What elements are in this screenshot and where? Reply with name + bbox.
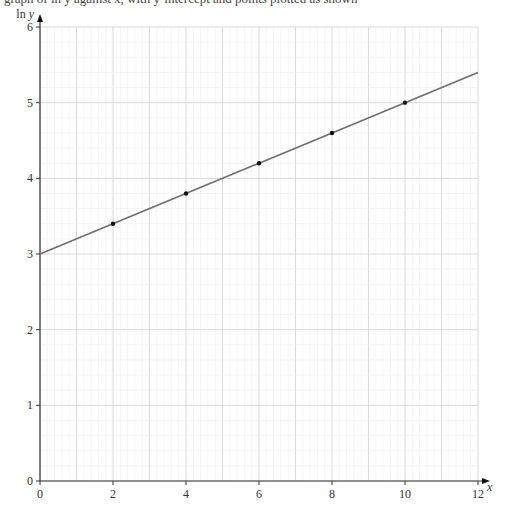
x-axis-title: x <box>486 480 493 494</box>
x-tick-label: 10 <box>399 487 411 501</box>
x-tick-label: 6 <box>256 487 262 501</box>
y-tick-label: 1 <box>27 398 33 412</box>
x-tick-label: 8 <box>329 487 335 501</box>
y-tick-label: 6 <box>27 20 33 34</box>
grid <box>40 27 478 481</box>
data-point <box>184 191 188 195</box>
y-tick-label: 4 <box>27 171 33 185</box>
axes <box>37 14 490 484</box>
data-point <box>257 161 261 165</box>
y-tick-label: 3 <box>27 247 33 261</box>
data-point <box>330 131 334 135</box>
y-axis-title: ln y <box>16 7 34 21</box>
y-tick-label: 2 <box>27 323 33 337</box>
y-tick-label: 0 <box>27 474 33 488</box>
x-tick-label: 2 <box>110 487 116 501</box>
x-tick-label: 12 <box>472 487 484 501</box>
ln-y-vs-x-graph: 0246810120123456xln y <box>0 0 510 520</box>
x-tick-label: 0 <box>37 487 43 501</box>
y-tick-label: 5 <box>27 96 33 110</box>
y-axis-arrow-icon <box>37 14 43 22</box>
data-point <box>403 100 407 104</box>
data-point <box>111 222 115 226</box>
x-tick-label: 4 <box>183 487 189 501</box>
